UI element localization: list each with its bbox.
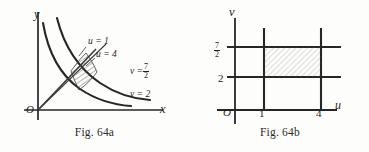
figure-64b-panel: v u O 1 4 72 2 Fig. 64b [185,0,369,152]
curve-label-v-upper-text: v = [130,66,143,76]
figure-64b-caption: Fig. 64b [188,126,369,138]
curve-label-v-equals-seven-halves: v =72 [130,63,149,81]
fraction-seven-halves: 72 [214,42,220,60]
fraction-seven-halves: 72 [143,63,149,81]
fraction-numerator: 7 [143,63,149,71]
shaded-region-uv [264,47,321,77]
curve-label-v-equals-2: v = 2 [130,90,150,100]
x-tick-label-1: 1 [259,108,265,119]
u-axis-label: u [335,99,341,111]
x-axis-label: x [160,103,166,116]
curve-label-u-equals-4: u = 4 [96,50,117,60]
fraction-denominator: 2 [214,50,220,59]
figure-64a-caption: Fig. 64a [2,126,187,138]
fraction-numerator: 7 [214,42,220,50]
y-tick-label-2: 2 [218,73,224,84]
fraction-denominator: 2 [143,71,149,80]
v-axis-label: v [229,6,235,19]
curve-label-u-equals-1: u = 1 [88,37,109,47]
figure-64a-panel: y x O u = 1 u = 4 v =72 v = 2 Fig. 64a [0,0,185,152]
figure-container: y x O u = 1 u = 4 v =72 v = 2 Fig. 64a [0,0,369,152]
origin-label: O [26,104,34,115]
x-tick-label-4: 4 [316,108,322,119]
y-tick-label-seven-halves: 72 [214,42,220,60]
origin-label: O [223,107,231,118]
y-axis-label: y [34,8,40,21]
